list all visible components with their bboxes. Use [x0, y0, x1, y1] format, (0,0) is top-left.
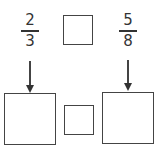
denominator: 8 [118, 34, 138, 49]
down-arrow-icon [127, 60, 129, 84]
denominator: 3 [20, 34, 40, 49]
answer-box-left[interactable] [4, 93, 56, 145]
compare-symbol-box-bottom[interactable] [64, 105, 94, 135]
answer-box-right[interactable] [102, 92, 154, 144]
compare-symbol-box[interactable] [63, 15, 93, 45]
fraction-two-thirds: 2 3 [20, 13, 40, 49]
numerator: 2 [20, 13, 40, 28]
down-arrow-icon [29, 61, 31, 86]
fraction-five-eighths: 5 8 [118, 13, 138, 49]
numerator: 5 [118, 13, 138, 28]
